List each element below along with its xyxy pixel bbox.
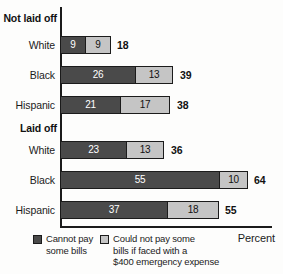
bar-segment-value: 26 <box>93 70 104 80</box>
bar-segment-value: 23 <box>88 145 99 155</box>
bar-segment-cannot-pay: 55 <box>60 171 220 189</box>
bar-segment-cannot-pay: 26 <box>60 66 136 84</box>
x-axis-line <box>60 226 272 228</box>
bar-total-value: 36 <box>171 144 182 156</box>
group-header-not-laid-off: Not laid off <box>3 12 57 24</box>
bar-total-value: 64 <box>254 174 265 186</box>
bar-row-not-laid-off-black: Black 26 13 39 <box>0 66 283 84</box>
bar-segment-value: 13 <box>149 70 160 80</box>
bar-row-label: Black <box>0 69 55 81</box>
bar-segment-value: 9 <box>70 40 75 50</box>
bar-segment-value: 17 <box>140 100 151 110</box>
x-axis-title: Percent <box>238 232 275 244</box>
bar-row-not-laid-off-hispanic: Hispanic 21 17 38 <box>0 96 283 114</box>
stacked-bar: 37 18 <box>60 201 219 219</box>
bar-segment-could-not-pay-400: 9 <box>85 36 111 54</box>
bar-segment-could-not-pay-400: 17 <box>120 96 170 114</box>
legend-item-label: Could not pay some bills if faced with a… <box>113 233 219 268</box>
legend-item-label: Cannot pay some bills <box>46 233 93 256</box>
stacked-bar: 26 13 <box>60 66 173 84</box>
bar-segment-cannot-pay: 9 <box>60 36 86 54</box>
bar-segment-value: 55 <box>135 175 146 185</box>
bar-segment-cannot-pay: 23 <box>60 141 127 159</box>
bar-total-value: 39 <box>180 69 191 81</box>
bar-row-label: Hispanic <box>0 99 55 111</box>
stacked-bar: 9 9 <box>60 36 111 54</box>
bar-total-value: 38 <box>177 99 188 111</box>
bar-row-laid-off-hispanic: Hispanic 37 18 55 <box>0 201 283 219</box>
bar-segment-value: 10 <box>228 175 239 185</box>
stacked-bar-chart: Not laid off Laid off White 9 9 18 Black… <box>0 0 283 274</box>
bar-segment-could-not-pay-400: 13 <box>126 141 164 159</box>
legend-swatch-icon <box>33 235 42 244</box>
bar-segment-cannot-pay: 21 <box>60 96 121 114</box>
bar-segment-could-not-pay-400: 10 <box>219 171 248 189</box>
bar-total-value: 55 <box>225 204 236 216</box>
group-header-laid-off: Laid off <box>20 122 57 134</box>
bar-segment-value: 9 <box>95 40 100 50</box>
legend-swatch-icon <box>100 235 109 244</box>
bar-total-value: 18 <box>117 39 128 51</box>
bar-segment-value: 13 <box>140 145 151 155</box>
bar-segment-cannot-pay: 37 <box>60 201 168 219</box>
bar-row-label: Hispanic <box>0 204 55 216</box>
bar-row-label: White <box>0 144 55 156</box>
bar-row-label: Black <box>0 174 55 186</box>
legend-item-could-not-pay-400: Could not pay some bills if faced with a… <box>100 233 219 268</box>
bar-row-laid-off-black: Black 55 10 64 <box>0 171 283 189</box>
bar-segment-could-not-pay-400: 13 <box>135 66 173 84</box>
bar-row-laid-off-white: White 23 13 36 <box>0 141 283 159</box>
bar-row-not-laid-off-white: White 9 9 18 <box>0 36 283 54</box>
bar-segment-value: 21 <box>85 100 96 110</box>
stacked-bar: 21 17 <box>60 96 170 114</box>
bar-segment-value: 18 <box>188 205 199 215</box>
bar-segment-could-not-pay-400: 18 <box>167 201 219 219</box>
chart-legend: Cannot pay some bills Could not pay some… <box>33 233 219 268</box>
legend-item-cannot-pay: Cannot pay some bills <box>33 233 93 256</box>
stacked-bar: 23 13 <box>60 141 164 159</box>
stacked-bar: 55 10 <box>60 171 248 189</box>
bar-segment-value: 37 <box>109 205 120 215</box>
bar-row-label: White <box>0 39 55 51</box>
